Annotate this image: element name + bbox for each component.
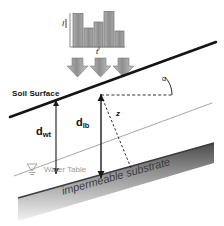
- dwt-label: dwt: [36, 126, 51, 138]
- dlb-label: dlb: [76, 117, 89, 129]
- z-label: z: [116, 110, 120, 118]
- dlb-label-base: d: [76, 116, 83, 128]
- depth-to-lower-boundary-measure: [98, 94, 105, 178]
- rainfall-hyetograph: [66, 12, 125, 51]
- infiltration-arrow-icon: [90, 58, 111, 77]
- soil-surface-line: [10, 42, 216, 117]
- hyetograph-bar: [115, 31, 124, 47]
- diagram-canvas: [0, 0, 224, 226]
- hyetograph-bar: [104, 12, 114, 48]
- hyetograph-bar: [73, 14, 83, 48]
- soil-surface-label: Soil Surface: [12, 90, 59, 98]
- hyetograph-bar: [94, 22, 103, 47]
- perpendicular-depth-measure: [101, 95, 131, 168]
- water-table-symbol-icon: [27, 164, 37, 171]
- water-table-label: Water Table: [44, 166, 86, 174]
- hyetograph-bar: [84, 28, 93, 47]
- infiltration-arrow-icon: [67, 58, 88, 77]
- hyetograph-y-axis-label: I: [62, 20, 64, 28]
- dwt-label-base: d: [36, 125, 43, 137]
- hillslope-diagram: I t Soil Surface dwt dlb z α Water Table…: [0, 0, 224, 226]
- depth-to-water-table-measure: [53, 100, 59, 174]
- dlb-label-subscript: lb: [83, 121, 90, 130]
- z-dashed-line: [101, 95, 131, 168]
- slope-angle-arc: [165, 77, 172, 95]
- hyetograph-x-axis-label: t: [96, 48, 98, 56]
- dwt-label-subscript: wt: [43, 130, 51, 139]
- slope-angle-label: α: [162, 75, 166, 82]
